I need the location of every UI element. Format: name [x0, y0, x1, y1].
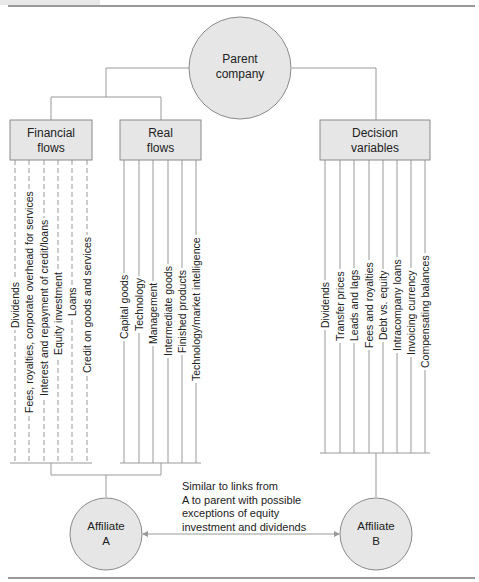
real-line1: Real	[120, 126, 201, 141]
note-line4: investment and dividends	[182, 521, 332, 535]
decision-variable-label: Leads and lags	[348, 268, 360, 343]
real-flow-label: Technology	[133, 276, 145, 333]
decision-variable-label: Intracompany loans	[391, 257, 403, 353]
real-flows-box: Real flows	[120, 126, 201, 156]
decision-variable-label: Transfer prices	[334, 269, 346, 343]
decision-variable-label: Fees and royalties	[363, 260, 375, 350]
financial-flow-label: Credit on goods and services	[81, 235, 93, 375]
financial-flow-label: Equity investment	[52, 270, 64, 357]
real-flow-label: Technology/market intelligence	[190, 235, 202, 383]
note-line1: Similar to links from	[182, 480, 332, 494]
financial-flow-label: Loans	[66, 285, 78, 318]
real-flow-label: Finished products	[176, 268, 188, 355]
decision-variables-box: Decision variables	[320, 126, 430, 156]
real-flow-label: Capital goods	[118, 273, 130, 341]
financial-line1: Financial	[10, 126, 92, 141]
parent-label-line1: Parent	[200, 52, 280, 67]
financial-line2: flows	[10, 141, 92, 156]
note-line2: A to parent with possible	[182, 494, 332, 508]
note-line3: exceptions of equity	[182, 507, 332, 521]
real-line2: flows	[120, 141, 201, 156]
decision-variable-label: Debt vs. equity	[377, 269, 389, 342]
affiliate-a-line2: A	[70, 534, 142, 549]
financial-flow-label: Interest and repayment of credit/loans	[38, 218, 50, 398]
affiliate-a-node: Affiliate A	[70, 519, 142, 549]
affiliate-b-line1: Affiliate	[340, 519, 412, 534]
decision-line1: Decision	[320, 126, 430, 141]
decision-variable-label: Compensating balances	[419, 253, 431, 370]
affiliate-b-node: Affiliate B	[340, 519, 412, 549]
affiliate-b-line2: B	[340, 534, 412, 549]
financial-flow-label: Fees, royalties, corporate overhead for …	[23, 189, 35, 415]
real-flow-label: Intermediate goods	[162, 264, 174, 358]
parent-company-node: Parent company	[200, 52, 280, 82]
real-flow-label: Management	[147, 281, 159, 346]
decision-variable-label: Dividends	[319, 280, 331, 330]
decision-line2: variables	[320, 141, 430, 156]
affiliate-link-note: Similar to links from A to parent with p…	[182, 480, 332, 534]
parent-label-line2: company	[200, 67, 280, 82]
financial-flows-box: Financial flows	[10, 126, 92, 156]
affiliate-a-line1: Affiliate	[70, 519, 142, 534]
decision-variable-label: Invoicing currency	[405, 268, 417, 357]
financial-flow-label: Dividends	[9, 280, 21, 330]
